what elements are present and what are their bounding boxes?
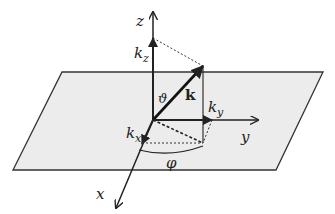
y-axis-label: y	[241, 130, 249, 145]
theta-label: ϑ	[158, 92, 167, 105]
k-label: k	[185, 88, 195, 103]
kz-projection-line	[153, 38, 203, 66]
kx-label: kx	[126, 126, 141, 144]
z-axis-label: z	[136, 14, 144, 29]
kz-label: kz	[134, 46, 149, 64]
ky-label: ky	[208, 100, 223, 118]
phi-label: φ	[166, 156, 177, 171]
x-axis-label: x	[96, 187, 104, 202]
diagram-canvas	[0, 0, 335, 214]
